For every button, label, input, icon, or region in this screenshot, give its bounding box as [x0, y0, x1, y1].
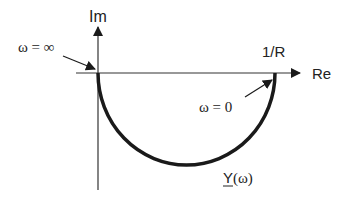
imag-axis-label: Im — [89, 8, 107, 25]
admittance-semicircle — [98, 73, 275, 165]
intercept-label: 1/R — [262, 43, 286, 60]
omega-zero-arrow — [245, 80, 272, 97]
admittance-diagram: Im Re 1/R ω = ∞ ω = 0 Y (ω) — [0, 0, 351, 198]
omega-zero-label: ω = 0 — [199, 99, 232, 115]
curve-label-symbol: Y — [223, 169, 233, 186]
omega-inf-arrow — [63, 56, 95, 69]
omega-inf-label: ω = ∞ — [18, 39, 55, 55]
curve-label: Y (ω) — [223, 169, 253, 187]
real-axis-label: Re — [312, 65, 331, 82]
curve-label-arg: (ω) — [233, 170, 253, 187]
